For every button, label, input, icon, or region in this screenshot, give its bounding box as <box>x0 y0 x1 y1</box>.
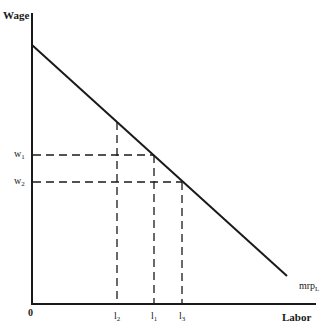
w2-label: w2 <box>14 176 25 188</box>
mrp-curve <box>32 45 287 276</box>
mrp-label: mrpL <box>299 281 319 293</box>
x-axis-label: Labor <box>282 312 311 323</box>
w1-label: w1 <box>14 149 25 161</box>
l2-label: l2 <box>114 311 120 323</box>
l3-label: l3 <box>179 311 185 323</box>
y-axis-label: Wage <box>3 10 29 21</box>
labor-demand-diagram <box>0 0 334 330</box>
origin-label: 0 <box>28 308 33 318</box>
l1-label: l1 <box>151 311 157 323</box>
